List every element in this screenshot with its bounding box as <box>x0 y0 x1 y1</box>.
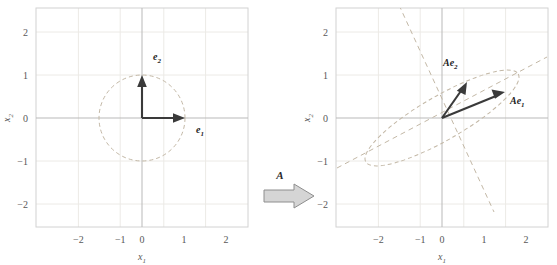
y-tick-label: −2 <box>17 199 28 210</box>
x-axis-title: x1 <box>437 251 446 265</box>
x-tick-label: −2 <box>73 234 84 245</box>
vector-label-e2: e2 <box>153 51 161 65</box>
x-tick-label: 0 <box>140 234 145 245</box>
y-tick-label: 2 <box>23 27 28 38</box>
transformed-ellipse-plot: Ae1 Ae2 −2 −1 0 1 2 2 1 0 −1 −2 x1 x2 <box>279 0 557 265</box>
vector-e2 <box>137 75 147 118</box>
linear-transformation-figure: e1 e2 −2 −1 0 1 2 2 1 0 −1 −2 x1 x2 <box>0 0 557 265</box>
vector-label-Ae1: Ae1 <box>509 95 525 109</box>
y-tick-label: 0 <box>23 113 28 124</box>
operator-label: A <box>275 169 283 181</box>
x-tick-label: −1 <box>115 234 126 245</box>
vector-label-Ae2: Ae2 <box>442 57 458 71</box>
x-tick-label: 2 <box>224 234 229 245</box>
x-tick-label: −2 <box>373 234 384 245</box>
y-tick-label: −2 <box>317 199 328 210</box>
y-tick-label: 2 <box>323 27 328 38</box>
y-tick-label: −1 <box>317 156 328 167</box>
ellipse-minor-axis <box>399 5 494 212</box>
y-tick-label: 1 <box>323 70 328 81</box>
y-axis-title: x2 <box>1 114 15 123</box>
x-tick-label: 1 <box>482 234 487 245</box>
transform-operator: A <box>262 160 318 212</box>
y-axis-title: x2 <box>301 114 315 123</box>
unit-circle-plot: e1 e2 −2 −1 0 1 2 2 1 0 −1 −2 x1 x2 <box>0 0 278 265</box>
x-tick-label: 2 <box>524 234 529 245</box>
x-tick-label: 0 <box>440 234 445 245</box>
x-axis-title: x1 <box>137 251 146 265</box>
x-tick-label: −1 <box>415 234 426 245</box>
y-tick-label: 0 <box>323 113 328 124</box>
block-arrow-right-icon <box>264 184 314 208</box>
y-tick-label: 1 <box>23 70 28 81</box>
vector-label-e1: e1 <box>196 124 204 138</box>
y-tick-label: −1 <box>17 156 28 167</box>
x-tick-label: 1 <box>182 234 187 245</box>
